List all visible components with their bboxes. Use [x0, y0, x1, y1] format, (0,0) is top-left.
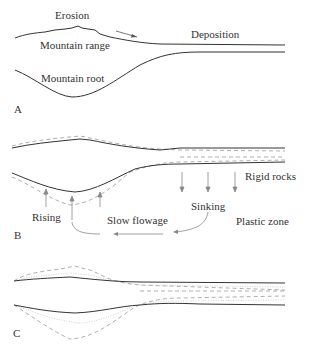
deposition-label: Deposition	[191, 29, 239, 40]
panel-a	[15, 26, 285, 97]
surface-solid	[12, 139, 285, 150]
panel-label-b: B	[14, 230, 21, 241]
c-surface-solid	[14, 277, 285, 283]
sinking-label: Sinking	[191, 201, 225, 212]
mountain-range-label: Mountain range	[40, 40, 110, 51]
c-root-dashed	[14, 296, 285, 339]
erosion-label: Erosion	[55, 10, 89, 21]
slow-flowage-label: Slow flowage	[107, 215, 168, 226]
c-surface-dotted	[14, 273, 285, 287]
rising-label: Rising	[32, 212, 61, 223]
plastic-zone-label: Plastic zone	[236, 216, 289, 227]
root-dashed	[12, 160, 285, 205]
sinking-arrows	[180, 172, 237, 192]
flow-return-path	[175, 212, 208, 232]
panel-c	[14, 266, 285, 339]
flow-left-path	[72, 222, 100, 234]
mountain-root-label: Mountain root	[41, 73, 104, 84]
panel-label-a: A	[14, 104, 22, 115]
rigid-rocks-label: Rigid rocks	[245, 171, 296, 182]
c-root-solid	[14, 303, 285, 313]
panel-label-c: C	[13, 328, 20, 339]
